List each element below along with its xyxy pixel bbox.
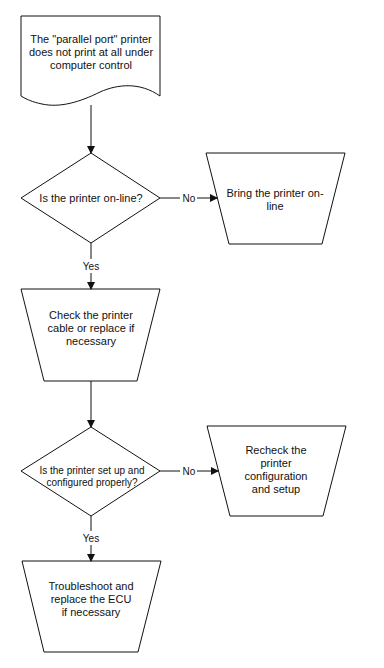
decision1-yes-label: Yes bbox=[76, 260, 106, 273]
decision1-text: Is the printer on-line? bbox=[30, 192, 152, 205]
check-cable-text: Check the printer cable or replace if ne… bbox=[46, 309, 136, 348]
bring-online-text: Bring the printer on-line bbox=[225, 187, 325, 213]
decision2-yes-label: Yes bbox=[76, 532, 106, 545]
start-text: The "parallel port" printer does not pri… bbox=[24, 33, 158, 72]
decision2-no-label: No bbox=[179, 465, 199, 478]
decision2-text: Is the printer set up and configured pro… bbox=[30, 465, 154, 489]
troubleshoot-ecu-text: Troubleshoot and replace the ECU if nece… bbox=[48, 580, 134, 619]
decision1-no-label: No bbox=[179, 192, 199, 205]
recheck-config-text: Recheck the printer configuration and se… bbox=[236, 444, 316, 496]
